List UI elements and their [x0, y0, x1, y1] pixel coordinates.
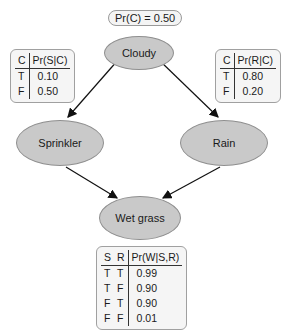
node-wet-grass-label: Wet grass — [115, 212, 164, 224]
cpt-cell: 0.01 — [128, 311, 182, 326]
edge-cloudy-sprinkler — [68, 60, 118, 117]
cpt-header: C — [220, 53, 234, 69]
cpt-sprinkler: C Pr(S|C) T 0.10 F 0.50 — [10, 49, 75, 103]
cpt-header: Pr(S|C) — [29, 53, 70, 69]
cpt-cell: T — [220, 69, 234, 85]
cpt-cell: T — [114, 266, 128, 282]
cpt-cell: 0.99 — [128, 266, 182, 282]
cpt-cell: T — [15, 69, 29, 85]
prior-cloudy: Pr(C) = 0.50 — [108, 10, 182, 26]
cpt-cell: 0.90 — [128, 296, 182, 311]
cpt-cell: F — [101, 311, 114, 326]
cpt-cell: 0.50 — [29, 84, 70, 99]
cpt-cell: 0.80 — [234, 69, 276, 85]
cpt-cell: 0.90 — [128, 281, 182, 296]
node-rain-label: Rain — [213, 137, 236, 149]
cpt-header: C — [15, 53, 29, 69]
cpt-header: Pr(W|S,R) — [128, 250, 182, 266]
edge-rain-wetgrass — [163, 167, 220, 198]
node-cloudy-label: Cloudy — [122, 47, 156, 59]
cpt-header: R — [114, 250, 128, 266]
cpt-cell: 0.10 — [29, 69, 70, 85]
cpt-cell: F — [220, 84, 234, 99]
cpt-header: S — [101, 250, 114, 266]
edge-cloudy-rain — [159, 60, 218, 117]
edge-sprinkler-wetgrass — [66, 167, 117, 198]
node-sprinkler-label: Sprinkler — [38, 137, 81, 149]
cpt-rain: C Pr(R|C) T 0.80 F 0.20 — [215, 49, 281, 103]
cpt-cell: F — [15, 84, 29, 99]
node-wet-grass: Wet grass — [99, 196, 181, 240]
cpt-cell: T — [101, 281, 114, 296]
cpt-cell: 0.20 — [234, 84, 276, 99]
cpt-cell: T — [101, 266, 114, 282]
cpt-cell: F — [114, 311, 128, 326]
node-sprinkler: Sprinkler — [16, 120, 104, 166]
node-cloudy: Cloudy — [104, 36, 174, 70]
cpt-cell: F — [114, 281, 128, 296]
node-rain: Rain — [180, 120, 268, 166]
cpt-header: Pr(R|C) — [234, 53, 276, 69]
cpt-wet-grass: S R Pr(W|S,R) T T 0.99 T F 0.90 F T 0.90… — [96, 246, 187, 330]
cpt-cell: F — [101, 296, 114, 311]
cpt-cell: T — [114, 296, 128, 311]
